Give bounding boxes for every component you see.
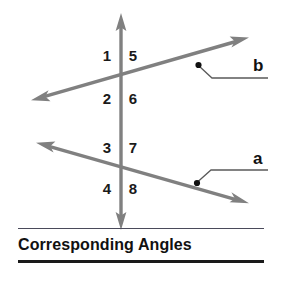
angle-label-5: 5 [126, 48, 140, 63]
leader-a [194, 170, 268, 186]
corresponding-angles-figure: 1 5 2 6 3 7 4 8 b a Corresponding Angles [0, 0, 282, 285]
caption-text: Corresponding Angles [0, 229, 282, 260]
caption-block: Corresponding Angles [0, 228, 282, 263]
line-a [36, 142, 249, 204]
angle-label-2: 2 [100, 91, 114, 106]
leader-a-dot [194, 180, 200, 186]
caption-rule-bottom [18, 260, 264, 263]
angle-label-7: 7 [126, 140, 140, 155]
angle-label-6: 6 [126, 91, 140, 106]
line-label-a: a [253, 150, 262, 167]
line-b [31, 36, 249, 101]
angle-label-8: 8 [126, 181, 140, 196]
line-label-b: b [253, 57, 263, 74]
angle-label-3: 3 [100, 140, 114, 155]
transversal-line [116, 13, 127, 230]
leader-b-dot [195, 62, 201, 68]
line-b-shaft [44, 42, 236, 97]
angle-label-1: 1 [100, 48, 114, 63]
leader-a-path [198, 170, 269, 182]
angle-label-4: 4 [100, 181, 114, 196]
